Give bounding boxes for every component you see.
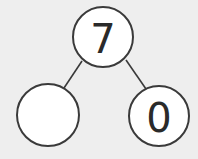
number-bond-diagram: 7 0 <box>0 0 198 159</box>
left-part-node[interactable] <box>17 84 79 146</box>
whole-node: 7 <box>73 7 133 67</box>
edge-whole-to-left-part <box>64 61 82 88</box>
whole-value: 7 <box>90 16 115 62</box>
edge-whole-to-right-part <box>126 60 146 89</box>
right-part-node: 0 <box>129 86 189 146</box>
right-part-value: 0 <box>146 95 171 141</box>
